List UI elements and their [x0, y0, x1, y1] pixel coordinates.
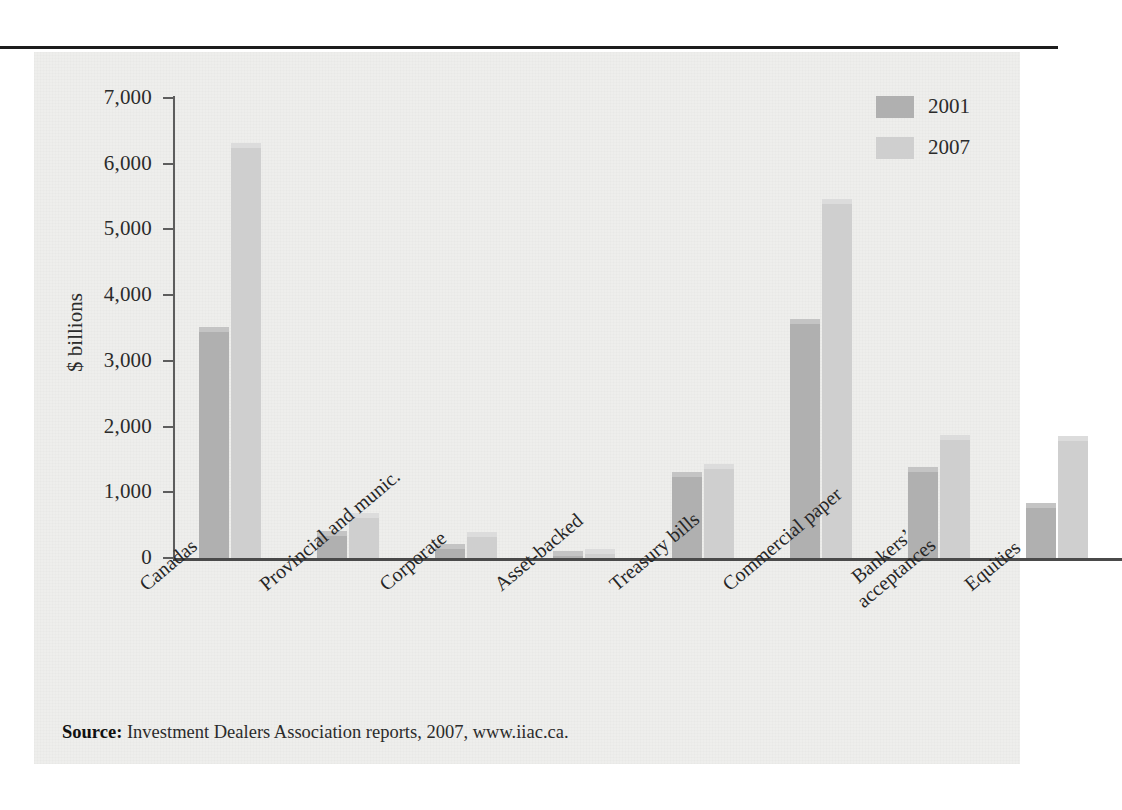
source-note: Source: Investment Dealers Association r… [62, 722, 569, 743]
y-axis-title: $ billions [63, 248, 88, 418]
legend-label-2007: 2007 [928, 135, 970, 160]
y-axis-tick [163, 491, 174, 493]
y-axis-tick [163, 228, 174, 230]
legend-swatch-2001 [876, 96, 914, 118]
bar-top-highlight [822, 199, 852, 204]
bar-group [672, 88, 734, 558]
y-axis-tick-label: 6,000 [60, 151, 152, 176]
y-axis-tick [163, 163, 174, 165]
legend-label-2001: 2001 [928, 94, 970, 119]
bar-top-highlight [790, 319, 820, 324]
bar-2007-6 [940, 439, 970, 558]
bar-group [435, 88, 497, 558]
legend-swatch-2007 [876, 137, 914, 159]
y-axis-tick [163, 97, 174, 99]
bar-2007-3 [585, 553, 615, 558]
bar-2001-3 [553, 555, 583, 558]
bar-2001-0 [199, 331, 229, 558]
bar-top-highlight [585, 549, 615, 554]
legend-item-2001: 2001 [876, 94, 1026, 119]
bar-2007-7 [1058, 440, 1088, 558]
y-axis-tick-label: 0 [60, 545, 152, 570]
bar-2001-7 [1026, 507, 1056, 558]
y-axis-tick-label: 1,000 [60, 479, 152, 504]
bar-group [553, 88, 615, 558]
bar-2007-2 [467, 536, 497, 558]
bar-group [1026, 88, 1088, 558]
bar-top-highlight [704, 464, 734, 469]
legend-item-2007: 2007 [876, 135, 1026, 160]
bar-top-highlight [231, 143, 261, 148]
y-axis-tick [163, 426, 174, 428]
bar-top-highlight [908, 467, 938, 472]
y-axis-tick [163, 360, 174, 362]
bar-2007-4 [704, 468, 734, 558]
y-axis-tick-label: 7,000 [60, 85, 152, 110]
source-label: Source: [62, 722, 122, 742]
bar-top-highlight [940, 435, 970, 440]
bar-top-highlight [672, 472, 702, 477]
y-axis-tick-label: 5,000 [60, 216, 152, 241]
bar-top-highlight [467, 532, 497, 537]
chart-legend: 20012007 [876, 94, 1026, 176]
bar-top-highlight [199, 327, 229, 332]
y-axis-tick [163, 294, 174, 296]
bar-group [790, 88, 852, 558]
bar-2007-0 [231, 147, 261, 558]
bar-group [199, 88, 261, 558]
bar-top-highlight [553, 551, 583, 556]
bar-top-highlight [1026, 503, 1056, 508]
bar-top-highlight [1058, 436, 1088, 441]
source-text: Investment Dealers Association reports, … [122, 722, 568, 742]
